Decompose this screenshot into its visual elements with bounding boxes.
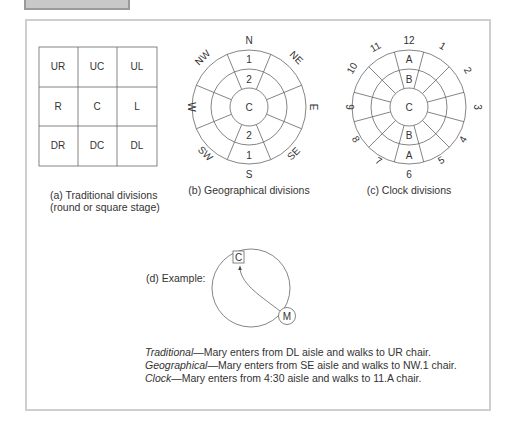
hour-4: 4 <box>457 134 470 145</box>
clock-top-b: B <box>406 74 413 85</box>
hour-6: 6 <box>406 169 412 180</box>
hour-3: 3 <box>472 104 483 110</box>
example-actor: M <box>283 311 291 322</box>
cell-ur: UR <box>51 61 65 72</box>
description-clock: Clock—Mary enters from 4:30 aisle and wa… <box>145 372 421 385</box>
term-geographical: Geographical <box>145 359 207 371</box>
example-label: (d) Example: <box>146 272 206 284</box>
hour-9: 9 <box>344 104 355 110</box>
geo-s-2: 2 <box>246 130 252 141</box>
cell-l: L <box>134 101 140 112</box>
cell-r: R <box>54 101 61 112</box>
clock-bottom-a: A <box>406 150 413 161</box>
cell-dl: DL <box>131 140 144 151</box>
caption-geographical: (b) Geographical divisions <box>188 184 309 196</box>
caption-clock: (c) Clock divisions <box>367 184 452 196</box>
cell-ul: UL <box>131 61 144 72</box>
text-traditional: —Mary enters from DL aisle and walks to … <box>193 346 431 358</box>
geo-n-2: 2 <box>246 74 252 85</box>
text-clock: —Mary enters from 4:30 aisle and walks t… <box>171 372 421 384</box>
clock-top-a: A <box>406 54 413 65</box>
dir-nw: NW <box>193 47 213 67</box>
text-geographical: —Mary enters from SE aisle and walks to … <box>207 359 456 371</box>
dir-w: W <box>186 102 197 112</box>
cell-dc: DC <box>90 140 104 151</box>
description-geographical: Geographical—Mary enters from SE aisle a… <box>145 359 457 372</box>
hour-10: 10 <box>344 60 359 76</box>
dir-ne: NE <box>288 49 306 67</box>
dir-sw: SW <box>196 144 216 164</box>
dir-se: SE <box>285 145 302 162</box>
cell-dr: DR <box>51 140 65 151</box>
geo-s-1: 1 <box>246 150 252 161</box>
term-traditional: Traditional <box>145 346 193 358</box>
term-clock: Clock <box>145 372 171 384</box>
clock-bottom-b: B <box>406 130 413 141</box>
hour-12: 12 <box>403 35 415 46</box>
dir-n: N <box>245 35 252 46</box>
hour-8: 8 <box>350 134 363 145</box>
clock-center: C <box>405 102 412 113</box>
cell-c: C <box>93 101 100 112</box>
geo-n-1: 1 <box>246 54 252 65</box>
hour-1: 1 <box>438 40 449 53</box>
hour-5: 5 <box>436 154 447 167</box>
description-traditional: Traditional—Mary enters from DL aisle an… <box>145 346 431 359</box>
hour-11: 11 <box>368 39 383 54</box>
caption-traditional-2: (round or square stage) <box>50 201 160 213</box>
example-chair: C <box>235 252 242 263</box>
caption-traditional-1: (a) Traditional divisions <box>50 189 157 201</box>
geo-center: C <box>245 102 252 113</box>
dir-e: E <box>308 104 319 111</box>
dir-s: S <box>246 169 253 180</box>
hour-7: 7 <box>374 155 385 168</box>
hour-2: 2 <box>462 65 475 76</box>
cell-uc: UC <box>90 61 104 72</box>
